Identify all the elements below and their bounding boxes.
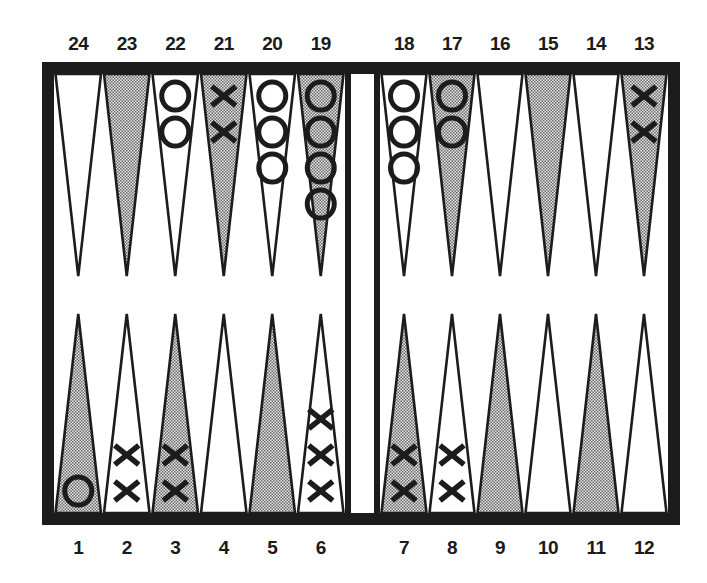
point-8[interactable] — [430, 314, 475, 513]
point-1[interactable] — [56, 314, 102, 513]
checkers-layer — [65, 82, 656, 505]
points-layer — [56, 74, 667, 513]
point-13[interactable] — [622, 74, 667, 276]
point-23[interactable] — [104, 74, 150, 276]
point-17[interactable] — [430, 74, 475, 276]
point-11[interactable] — [574, 314, 619, 513]
bar-left-edge — [345, 72, 351, 516]
backgammon-board — [0, 0, 707, 583]
point-20[interactable] — [250, 74, 296, 276]
point-15[interactable] — [526, 74, 571, 276]
point-3[interactable] — [153, 314, 199, 513]
point-14[interactable] — [574, 74, 619, 276]
backgammon-board-figure: 242322212019181716151413123456789101112 — [0, 0, 707, 583]
point-7[interactable] — [382, 314, 427, 513]
point-5[interactable] — [250, 314, 296, 513]
bar-right-edge — [374, 72, 380, 516]
point-19[interactable] — [298, 74, 344, 276]
point-18[interactable] — [382, 74, 427, 276]
point-6[interactable] — [298, 314, 344, 513]
point-2[interactable] — [104, 314, 150, 513]
point-12[interactable] — [622, 314, 667, 513]
point-10[interactable] — [526, 314, 571, 513]
point-21[interactable] — [201, 74, 247, 276]
point-24[interactable] — [56, 74, 102, 276]
point-9[interactable] — [478, 314, 523, 513]
point-22[interactable] — [153, 74, 199, 276]
point-16[interactable] — [478, 74, 523, 276]
point-4[interactable] — [201, 314, 247, 513]
